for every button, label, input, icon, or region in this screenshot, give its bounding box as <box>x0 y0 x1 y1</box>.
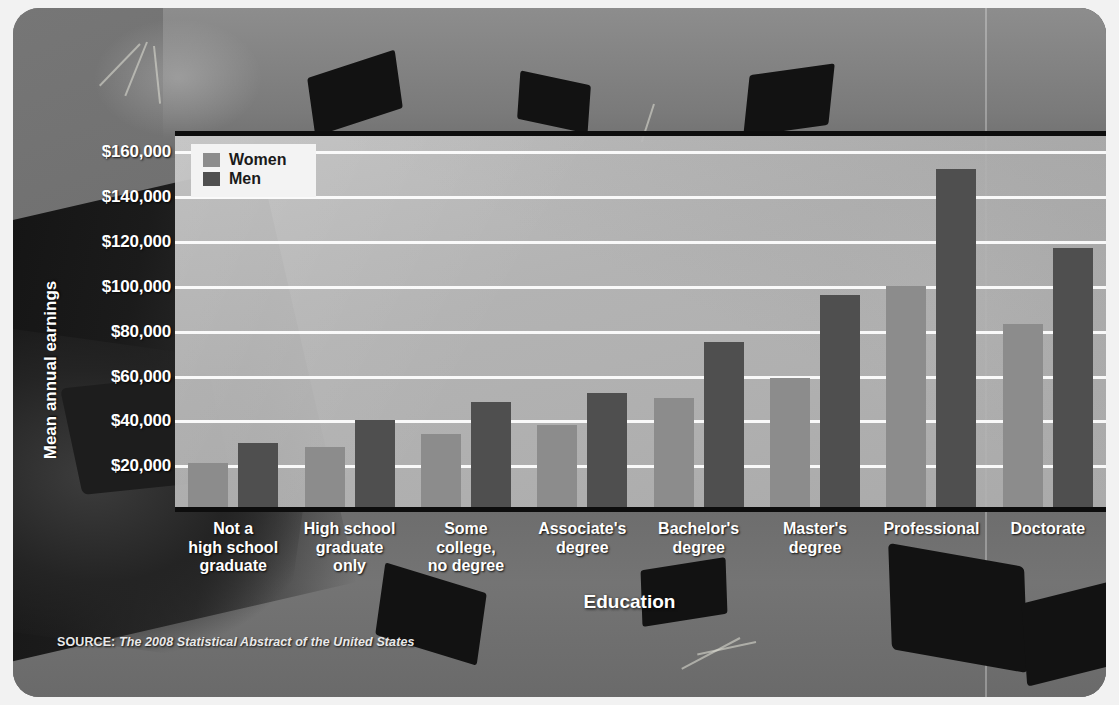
x-axis-title: Education <box>13 591 1106 613</box>
bar-men-0 <box>238 443 278 512</box>
legend-swatch-men <box>203 172 220 186</box>
chart-figure: Mean annual earnings $20,000$40,000$60,0… <box>13 8 1106 697</box>
bar-women-5 <box>770 378 810 512</box>
y-axis-tick-label: $60,000 <box>111 367 171 387</box>
x-axis-title-text: Education <box>584 591 676 612</box>
legend-item: Men <box>203 170 286 189</box>
bar-women-3 <box>537 425 577 512</box>
y-axis-tick-label: $40,000 <box>111 411 171 431</box>
bar-women-0 <box>188 463 228 512</box>
y-axis-tick-label: $20,000 <box>111 456 171 476</box>
y-axis-tick-label: $100,000 <box>102 277 171 297</box>
bar-men-6 <box>936 169 976 512</box>
legend-swatch-women <box>203 153 220 167</box>
source-text: The 2008 Statistical Abstract of the Uni… <box>119 635 415 649</box>
bar-women-2 <box>421 434 461 512</box>
source-note: SOURCE: The 2008 Statistical Abstract of… <box>57 635 415 649</box>
bar-men-7 <box>1053 248 1093 512</box>
graduation-cap-icon <box>743 63 835 136</box>
y-axis-tick-label: $80,000 <box>111 322 171 342</box>
bar-men-2 <box>471 402 511 512</box>
bar-men-1 <box>355 420 395 512</box>
legend-label: Men <box>229 170 261 189</box>
legend-label: Women <box>229 151 286 170</box>
x-axis-tick-labels: Not ahigh schoolgraduateHigh schoolgradu… <box>175 520 1106 592</box>
bar-women-7 <box>1003 324 1043 512</box>
plot-area: WomenMen <box>175 131 1106 512</box>
bar-men-5 <box>820 295 860 512</box>
y-axis-tick-label: $160,000 <box>102 142 171 162</box>
bar-women-1 <box>305 447 345 512</box>
legend-item: Women <box>203 151 286 170</box>
bar-women-6 <box>886 286 926 512</box>
y-axis-tick-label: $140,000 <box>102 187 171 207</box>
x-axis-tick-label-7: Doctorate <box>978 520 1106 539</box>
chart-legend: WomenMen <box>191 144 316 197</box>
bar-men-3 <box>587 393 627 512</box>
bar-men-4 <box>704 342 744 512</box>
bar-women-4 <box>654 398 694 512</box>
source-prefix: SOURCE: <box>57 635 115 649</box>
y-axis-tick-label: $120,000 <box>102 232 171 252</box>
x-axis-baseline <box>175 507 1106 512</box>
